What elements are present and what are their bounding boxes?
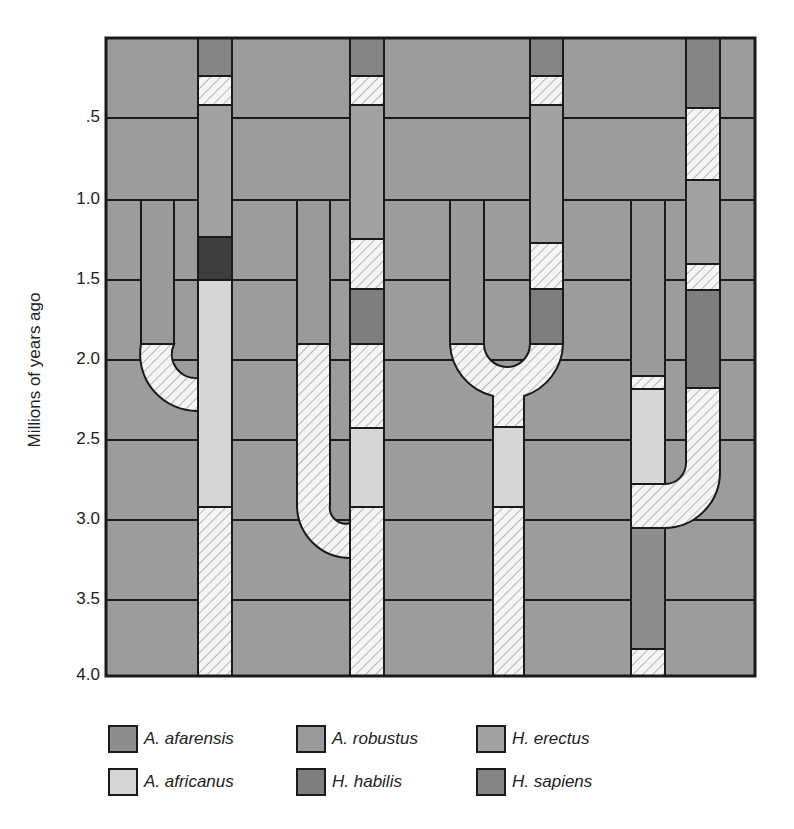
swatch-h-habilis bbox=[296, 768, 326, 796]
legend-item-h-habilis: H. habilis bbox=[296, 767, 402, 797]
y-tick-3.0: 3.0 bbox=[40, 509, 100, 529]
swatch-h-sapiens bbox=[476, 768, 506, 796]
swatch-a-africanus bbox=[108, 768, 138, 796]
legend-label: A. afarensis bbox=[144, 729, 234, 749]
swatch-a-robustus bbox=[296, 725, 326, 753]
legend-label: A. africanus bbox=[144, 772, 234, 792]
legend-label: A. robustus bbox=[332, 729, 418, 749]
legend-label: H. habilis bbox=[332, 772, 402, 792]
y-axis-label: Millions of years ago bbox=[25, 270, 45, 470]
legend-label: H. erectus bbox=[512, 729, 589, 749]
legend-item-a-robustus: A. robustus bbox=[296, 724, 418, 754]
swatch-a-afarensis bbox=[108, 725, 138, 753]
y-tick-4.0: 4.0 bbox=[40, 665, 100, 685]
y-tick-1.0: 1.0 bbox=[40, 189, 100, 209]
legend-item-a-africanus: A. africanus bbox=[108, 767, 234, 797]
y-tick-1.5: 1.5 bbox=[40, 269, 100, 289]
legend-item-h-erectus: H. erectus bbox=[476, 724, 589, 754]
legend: A. afarensis A. robustus H. erectus A. a… bbox=[108, 710, 668, 800]
y-tick-2.5: 2.5 bbox=[40, 429, 100, 449]
swatch-h-erectus bbox=[476, 725, 506, 753]
legend-item-a-afarensis: A. afarensis bbox=[108, 724, 234, 754]
legend-item-h-sapiens: H. sapiens bbox=[476, 767, 592, 797]
chart-canvas bbox=[0, 0, 794, 829]
phylogeny-diagram: .5 1.0 1.5 2.0 2.5 3.0 3.5 4.0 Millions … bbox=[0, 0, 794, 829]
y-tick-0.5: .5 bbox=[40, 107, 100, 127]
legend-label: H. sapiens bbox=[512, 772, 592, 792]
y-tick-2.0: 2.0 bbox=[40, 349, 100, 369]
y-tick-3.5: 3.5 bbox=[40, 589, 100, 609]
